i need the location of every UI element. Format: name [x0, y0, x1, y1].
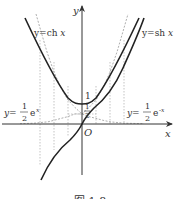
x-axis-label: x [165, 128, 171, 139]
svg-text:-x: -x [159, 106, 165, 113]
svg-text:y=: y= [3, 108, 17, 118]
tick-one-label: 1 [85, 91, 91, 101]
sinh-curve [41, 18, 144, 180]
svg-text:2: 2 [145, 114, 150, 123]
tick-half-den: 2 [85, 112, 89, 120]
svg-text:1: 1 [22, 102, 27, 111]
svg-text:e: e [30, 108, 35, 118]
svg-text:y=: y= [126, 108, 140, 118]
y-axis-label: y [72, 5, 79, 16]
figure-caption: 图 1-8 [74, 195, 106, 199]
origin-label: O [84, 127, 92, 138]
svg-text:2: 2 [22, 114, 27, 123]
half-exp-neg-label: y= 1 2 e -x [126, 102, 165, 123]
tick-half-num: 1 [85, 103, 89, 111]
half-exp-pos-label: y= 1 2 e x [3, 102, 40, 123]
sinh-label: y=sh x [141, 28, 173, 38]
hyperbolic-functions-diagram: y x O 1 1 2 y=ch x y=sh x y= 1 2 e x y= … [0, 0, 180, 199]
cosh-label: y=ch x [33, 28, 65, 38]
svg-text:1: 1 [145, 102, 150, 111]
svg-text:e: e [153, 108, 158, 118]
svg-text:x: x [36, 106, 40, 113]
